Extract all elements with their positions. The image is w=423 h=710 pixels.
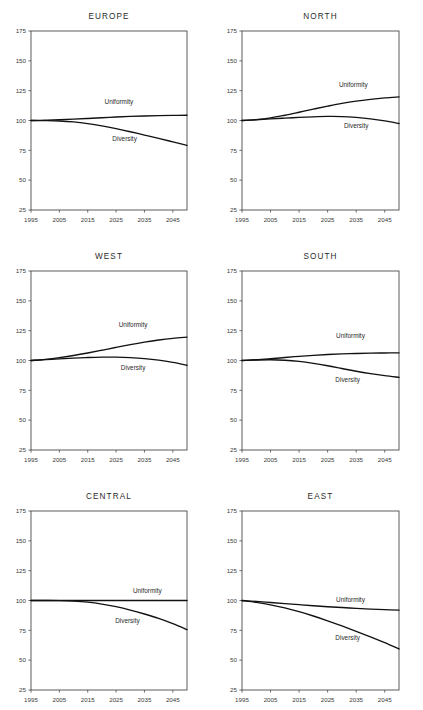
y-tick-label: 125 <box>16 567 27 574</box>
x-tick-label: 2005 <box>52 696 66 703</box>
x-tick-label: 2025 <box>109 216 123 223</box>
x-tick-label: 2035 <box>138 696 152 703</box>
x-tick-label: 2025 <box>109 696 123 703</box>
y-tick-label: 150 <box>227 297 238 304</box>
x-tick-label: 2015 <box>292 456 306 463</box>
y-tick-label: 25 <box>230 686 237 693</box>
y-tick-label: 150 <box>16 537 27 544</box>
x-tick-label: 2045 <box>378 216 392 223</box>
series-line-diversity <box>31 121 187 146</box>
x-tick-label: 2045 <box>166 456 180 463</box>
series-label-uniformity: Uniformity <box>336 596 366 604</box>
y-tick-label: 175 <box>227 267 238 274</box>
chart-title: CENTRAL <box>86 492 132 501</box>
plot-frame <box>242 511 399 690</box>
chart-panel-east: EAST175150125100755025199520052015202520… <box>211 480 423 710</box>
y-tick-label: 125 <box>16 87 27 94</box>
y-tick-label: 50 <box>230 416 237 423</box>
x-tick-label: 1995 <box>24 696 38 703</box>
x-tick-label: 2025 <box>321 696 335 703</box>
y-tick-label: 50 <box>19 656 26 663</box>
y-tick-label: 125 <box>227 87 238 94</box>
y-tick-label: 100 <box>227 117 238 124</box>
x-tick-label: 2035 <box>138 216 152 223</box>
series-label-diversity: Diversity <box>115 617 140 625</box>
series-label-diversity: Diversity <box>335 634 360 642</box>
series-line-uniformity <box>242 601 399 611</box>
x-tick-label: 1995 <box>235 216 249 223</box>
series-label-uniformity: Uniformity <box>133 587 163 595</box>
x-tick-label: 2025 <box>109 456 123 463</box>
x-tick-label: 2035 <box>349 216 363 223</box>
x-tick-label: 2035 <box>349 456 363 463</box>
chart-panel-north: NORTH17515012510075502519952005201520252… <box>211 0 423 240</box>
y-tick-label: 100 <box>16 357 27 364</box>
x-tick-label: 2015 <box>81 216 95 223</box>
y-tick-label: 150 <box>16 57 27 64</box>
x-tick-label: 2015 <box>292 216 306 223</box>
y-tick-label: 125 <box>227 567 238 574</box>
series-line-uniformity <box>31 115 187 120</box>
series-label-diversity: Diversity <box>121 364 146 372</box>
x-tick-label: 2005 <box>52 456 66 463</box>
y-tick-label: 150 <box>227 57 238 64</box>
x-tick-label: 2005 <box>264 456 278 463</box>
chart-panel-europe: EUROPE1751501251007550251995200520152025… <box>0 0 211 240</box>
series-label-uniformity: Uniformity <box>105 98 135 106</box>
x-tick-label: 2045 <box>166 216 180 223</box>
x-tick-label: 1995 <box>24 456 38 463</box>
y-tick-label: 125 <box>227 327 238 334</box>
series-label-diversity: Diversity <box>344 122 369 130</box>
plot-frame <box>242 31 399 210</box>
series-label-uniformity: Uniformity <box>119 321 149 329</box>
y-tick-label: 150 <box>16 297 27 304</box>
y-tick-label: 175 <box>227 27 238 34</box>
x-tick-label: 2045 <box>378 696 392 703</box>
y-tick-label: 25 <box>19 686 26 693</box>
y-tick-label: 100 <box>227 357 238 364</box>
x-tick-label: 2035 <box>349 696 363 703</box>
x-tick-label: 2045 <box>166 696 180 703</box>
series-label-diversity: Diversity <box>112 135 137 143</box>
x-tick-label: 2005 <box>264 696 278 703</box>
y-tick-label: 75 <box>230 387 237 394</box>
series-label-uniformity: Uniformity <box>336 332 366 340</box>
x-tick-label: 1995 <box>235 456 249 463</box>
chart-panel-central: CENTRAL175150125100755025199520052015202… <box>0 480 211 710</box>
y-tick-label: 75 <box>19 147 26 154</box>
x-tick-label: 1995 <box>24 216 38 223</box>
y-tick-label: 175 <box>16 507 27 514</box>
series-line-diversity <box>242 360 399 378</box>
x-tick-label: 2005 <box>264 216 278 223</box>
x-tick-label: 1995 <box>235 696 249 703</box>
series-line-diversity <box>242 116 399 123</box>
chart-title: NORTH <box>303 12 337 21</box>
y-tick-label: 75 <box>230 147 237 154</box>
y-tick-label: 125 <box>16 327 27 334</box>
chart-grid: EUROPE1751501251007550251995200520152025… <box>0 0 423 710</box>
x-tick-label: 2005 <box>52 216 66 223</box>
chart-title: EUROPE <box>88 12 129 21</box>
y-tick-label: 25 <box>230 446 237 453</box>
plot-frame <box>242 271 399 450</box>
y-tick-label: 175 <box>227 507 238 514</box>
y-tick-label: 25 <box>230 206 237 213</box>
x-tick-label: 2025 <box>321 456 335 463</box>
chart-panel-west: WEST175150125100755025199520052015202520… <box>0 240 211 480</box>
x-tick-label: 2015 <box>81 456 95 463</box>
y-tick-label: 100 <box>16 597 27 604</box>
y-tick-label: 150 <box>227 537 238 544</box>
x-tick-label: 2045 <box>378 456 392 463</box>
y-tick-label: 100 <box>16 117 27 124</box>
y-tick-label: 75 <box>19 627 26 634</box>
y-tick-label: 175 <box>16 27 27 34</box>
y-tick-label: 50 <box>230 176 237 183</box>
y-tick-label: 100 <box>227 597 238 604</box>
y-tick-label: 25 <box>19 446 26 453</box>
chart-title: WEST <box>95 252 123 261</box>
series-line-diversity <box>31 600 187 629</box>
y-tick-label: 50 <box>19 416 26 423</box>
series-line-diversity <box>242 601 399 649</box>
series-label-uniformity: Uniformity <box>339 81 369 89</box>
x-tick-label: 2035 <box>138 456 152 463</box>
